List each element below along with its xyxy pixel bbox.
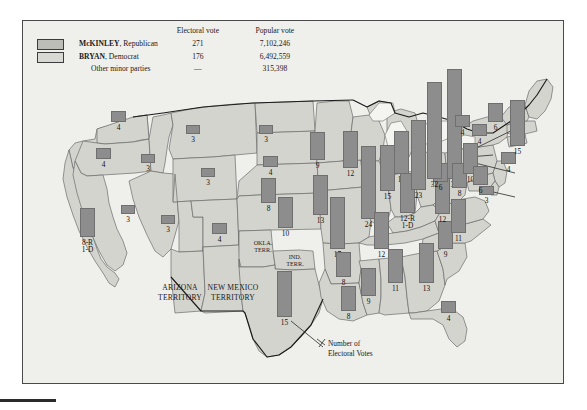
legend-row-bryan: BRYAN, Democrat 176 6,492,559 xyxy=(37,51,318,64)
electoral-bar-ut xyxy=(161,215,175,224)
electoral-label-la: 8 xyxy=(327,313,371,320)
electoral-vote-bryan: 176 xyxy=(164,51,232,64)
electoral-bar-nv xyxy=(121,205,135,214)
territory-label-indian: IND. TERR. xyxy=(279,253,311,268)
legend-row-mckinley: McKINLEY, Republican 271 7,102,246 xyxy=(37,38,318,51)
legend-candidate-bryan: BRYAN, Democrat xyxy=(73,51,164,64)
legend-swatch-cell-republican xyxy=(37,38,73,51)
electoral-bar-mo xyxy=(330,197,345,249)
electoral-label-tx: 15 xyxy=(263,319,307,326)
electoral-bar-tn xyxy=(374,212,389,249)
electoral-bar-wi xyxy=(343,131,358,168)
electoral-vote-mckinley: 271 xyxy=(164,38,232,51)
electoral-label-ar: 8 xyxy=(322,279,366,286)
electoral-label-wa: 4 xyxy=(97,124,141,131)
electoral-bar-ia xyxy=(313,175,328,215)
legend-swatch-cell-democrat xyxy=(37,51,73,64)
popular-vote-bryan: 6,492,559 xyxy=(232,51,318,64)
election-map-figure: 448-R 1-D333334348101591317881224141512-… xyxy=(0,0,587,410)
electoral-bar-or xyxy=(96,148,111,159)
electoral-bar-co xyxy=(212,223,227,234)
electoral-bar-ga xyxy=(419,243,434,283)
footer-rule xyxy=(0,399,56,402)
electoral-label-ma: 15 xyxy=(496,148,540,155)
legend-row-minor: Other minor parties — 315,398 xyxy=(37,64,318,74)
electoral-bar-ca xyxy=(80,208,95,237)
electoral-label-mn: 9 xyxy=(296,162,340,169)
electoral-label-id: 3 xyxy=(126,165,170,172)
electoral-bar-fl xyxy=(441,301,456,313)
legend-table: Electoral vote Popular vote McKINLEY, Re… xyxy=(37,27,318,74)
electoral-label-co: 4 xyxy=(198,236,242,243)
electoral-bar-al xyxy=(388,249,403,283)
democrat-swatch-icon xyxy=(37,52,64,63)
electoral-label-me: 6 xyxy=(474,124,518,131)
legend-header-popular: Popular vote xyxy=(232,27,318,38)
electoral-label-or: 4 xyxy=(82,161,126,168)
legend-candidate-mckinley: McKINLEY, Republican xyxy=(73,38,164,51)
electoral-label-nv: 3 xyxy=(106,216,150,223)
electoral-label-wy: 3 xyxy=(186,179,230,186)
electoral-label-ut: 3 xyxy=(146,226,190,233)
electoral-label-nh: 4 xyxy=(458,138,502,145)
electoral-bar-id xyxy=(141,154,155,163)
electoral-label-nd: 3 xyxy=(244,136,288,143)
electoral-bar-sd xyxy=(263,156,278,167)
electoral-bar-tx xyxy=(277,271,292,317)
electoral-label-ri: 4 xyxy=(487,166,531,173)
legend-swatch-cell-minor xyxy=(37,64,73,74)
electoral-bar-nd xyxy=(259,125,273,134)
electoral-bar-vt xyxy=(455,115,470,127)
figure-frame: 448-R 1-D333334348101591317881224141512-… xyxy=(22,20,564,384)
electoral-label-ms: 9 xyxy=(347,298,391,305)
electoral-bar-mn xyxy=(310,132,325,160)
electoral-bar-me xyxy=(488,103,503,122)
electoral-label-ct: 6 xyxy=(459,187,503,194)
popular-vote-minor: 315,398 xyxy=(232,64,318,74)
electoral-label-ga: 13 xyxy=(405,285,449,292)
electoral-label-ks: 10 xyxy=(264,230,308,237)
republican-swatch-icon xyxy=(37,39,64,50)
candidate-name-bryan: BRYAN xyxy=(79,52,105,61)
electoral-label-ca: 8-R 1-D xyxy=(66,239,110,254)
electoral-bar-in xyxy=(380,145,395,191)
legend-header-electoral: Electoral vote xyxy=(164,27,232,38)
legend-candidate-minor: Other minor parties xyxy=(73,64,164,74)
legend-header-swatch xyxy=(37,27,73,38)
electoral-label-va: 12 xyxy=(421,216,465,223)
electoral-bar-ks xyxy=(278,197,293,228)
legend: Electoral vote Popular vote McKINLEY, Re… xyxy=(37,27,367,74)
electoral-bar-oh xyxy=(411,120,426,190)
electoral-bar-ne xyxy=(261,178,276,203)
candidate-name-mckinley: McKINLEY xyxy=(79,39,120,48)
popular-vote-mckinley: 7,102,246 xyxy=(232,38,318,51)
electoral-bar-wa xyxy=(111,111,126,122)
electoral-label-de: 3 xyxy=(465,197,509,204)
electoral-bars-layer: 448-R 1-D333334348101591317881224141512-… xyxy=(23,21,563,383)
electoral-bar-ar xyxy=(336,252,351,277)
electoral-votes-annotation: Number of Electoral Votes xyxy=(328,339,373,358)
electoral-label-oh: 23 xyxy=(397,192,441,199)
electoral-bar-mi xyxy=(394,131,409,174)
electoral-label-fl: 4 xyxy=(427,315,471,322)
electoral-label-sc: 9 xyxy=(424,251,468,258)
electoral-bar-wy xyxy=(201,168,215,177)
electoral-bar-mt xyxy=(186,125,200,134)
legend-header-candidate xyxy=(73,27,164,38)
candidate-party-mckinley: , Republican xyxy=(120,39,158,48)
electoral-label-mt: 3 xyxy=(171,136,215,143)
territory-label-new-mexico: NEW MEXICO TERRITORY xyxy=(193,283,273,304)
electoral-label-sd: 4 xyxy=(249,169,293,176)
electoral-vote-minor: — xyxy=(164,64,232,74)
territory-label-oklahoma: OKLA. TERR. xyxy=(245,239,281,254)
electoral-bar-il xyxy=(361,146,376,219)
electoral-label-nc: 11 xyxy=(437,235,481,242)
legend-header-row: Electoral vote Popular vote xyxy=(37,27,318,38)
candidate-party-bryan: , Democrat xyxy=(105,52,139,61)
